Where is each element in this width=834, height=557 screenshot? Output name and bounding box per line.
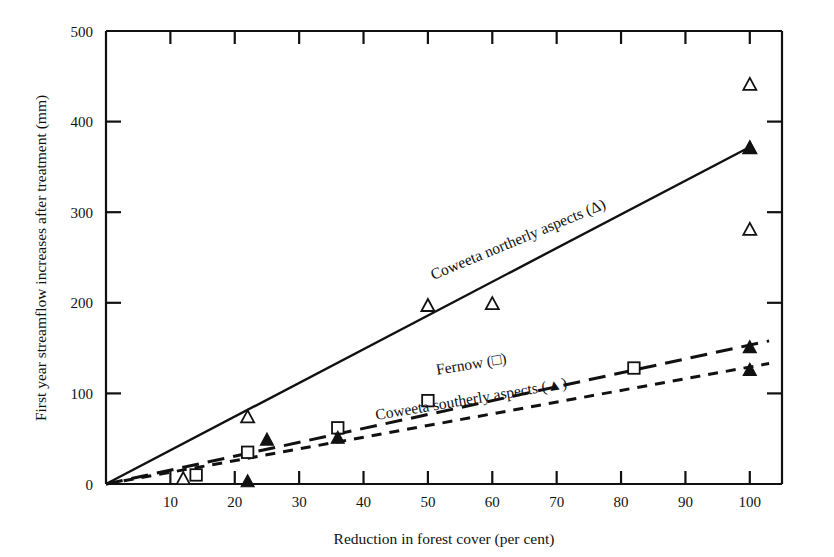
y-axis-tick-labels: 0100200300400500 [71, 24, 94, 493]
marker-coweeta-northerly-aspects-0 [177, 472, 190, 484]
y-tick-label-300: 300 [71, 205, 94, 221]
plot-frame [106, 31, 782, 484]
y-axis-title: First year streamflow increases after tr… [32, 95, 50, 421]
marker-fernow-4 [628, 362, 640, 374]
marker-coweeta-southerly-aspects-0 [241, 475, 254, 487]
x-tick-label-30: 30 [292, 494, 307, 510]
marker-coweeta-southerly-aspects-1 [260, 433, 273, 445]
x-tick-label-70: 70 [549, 494, 564, 510]
y-tick-label-100: 100 [71, 386, 94, 402]
x-axis-title: Reduction in forest cover (per cent) [334, 530, 555, 548]
label-southerly: Coweeta southerly aspects (▲) [374, 374, 568, 424]
x-axis-tick-labels: 102030405060708090100 [163, 494, 761, 510]
data-markers [177, 78, 757, 487]
marker-fernow-1 [242, 447, 254, 459]
x-tick-label-50: 50 [420, 494, 435, 510]
trend-line-coweeta-southerly-aspects [106, 364, 769, 484]
y-tick-label-0: 0 [86, 477, 94, 493]
chart-figure: 102030405060708090100 0100200300400500 C… [0, 0, 834, 557]
marker-coweeta-southerly-aspects-5 [743, 141, 756, 153]
marker-fernow-0 [190, 469, 202, 481]
x-tick-label-10: 10 [163, 494, 178, 510]
label-northerly: Coweeta northerly aspects (Δ) [428, 195, 608, 283]
y-tick-label-400: 400 [71, 114, 94, 130]
y-tick-label-500: 500 [71, 24, 94, 40]
axis-frame [106, 31, 782, 484]
x-tick-label-40: 40 [356, 494, 371, 510]
trend-lines [106, 147, 769, 484]
marker-coweeta-northerly-aspects-6 [743, 223, 756, 235]
y-axis-ticks [106, 122, 782, 394]
x-tick-label-100: 100 [739, 494, 762, 510]
x-tick-label-90: 90 [678, 494, 693, 510]
y-tick-label-200: 200 [71, 295, 94, 311]
x-tick-label-80: 80 [614, 494, 629, 510]
trend-line-coweeta-northerly-aspects [106, 147, 750, 484]
marker-coweeta-northerly-aspects-4 [743, 78, 756, 90]
x-tick-label-60: 60 [485, 494, 500, 510]
label-fernow: Fernow (□) [435, 349, 508, 378]
marker-coweeta-northerly-aspects-3 [486, 297, 499, 309]
marker-coweeta-northerly-aspects-2 [421, 299, 434, 311]
x-tick-label-20: 20 [227, 494, 242, 510]
streamflow-scatter-chart: 102030405060708090100 0100200300400500 C… [0, 0, 834, 557]
